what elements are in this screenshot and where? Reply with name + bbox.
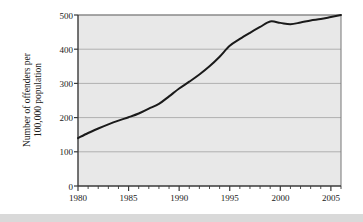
- x-tick-label: 2005: [322, 193, 341, 203]
- y-axis-label: Number of offenders per 100,000 populati…: [22, 52, 43, 147]
- y-tick-label: 200: [60, 113, 74, 123]
- y-tick-label: 300: [60, 79, 74, 89]
- y-tick-label: 500: [60, 11, 74, 21]
- x-tick-label: 1985: [120, 193, 139, 203]
- x-tick-label: 1995: [221, 193, 240, 203]
- plot-area-background: [78, 15, 341, 186]
- y-axis-label-line1: Number of offenders per: [22, 52, 32, 147]
- y-tick-label: 0: [69, 182, 74, 192]
- line-chart-svg: 500 400 300 200 100 0 1980 1985 1990 199…: [0, 0, 363, 222]
- y-tick-label: 400: [60, 45, 74, 55]
- y-tick-label: 100: [60, 147, 74, 157]
- x-tick-label: 2000: [271, 193, 290, 203]
- y-axis-label-line2: 100,000 population: [33, 63, 43, 137]
- bottom-band: [0, 214, 363, 222]
- chart-figure: 500 400 300 200 100 0 1980 1985 1990 199…: [0, 0, 363, 222]
- x-tick-label: 1990: [170, 193, 189, 203]
- x-tick-label: 1980: [69, 193, 88, 203]
